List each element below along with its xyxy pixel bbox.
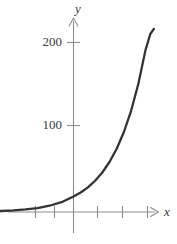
y-tick-label-200: 200 bbox=[43, 34, 63, 49]
exponential-growth-figure: 200 100 y x bbox=[0, 0, 177, 244]
y-axis-label: y bbox=[73, 1, 81, 16]
graph-canvas: 200 100 y x bbox=[0, 0, 177, 244]
x-axis-label: x bbox=[163, 204, 170, 219]
exponential-curve bbox=[0, 29, 154, 212]
y-tick-label-100: 100 bbox=[43, 117, 63, 132]
